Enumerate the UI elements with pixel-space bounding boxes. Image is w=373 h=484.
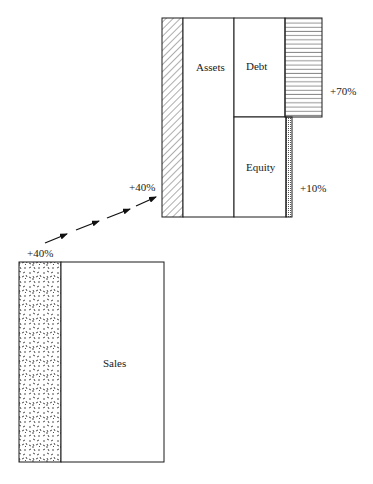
arrow-segment — [107, 209, 130, 218]
debt-label: Debt — [246, 61, 267, 72]
equity-growth-label: +10% — [300, 183, 326, 194]
arrow-segment — [136, 197, 156, 206]
assets-growth-hatch — [162, 18, 183, 217]
growth-arrow-connector — [45, 197, 156, 243]
assets-box — [183, 18, 234, 217]
sales-growth-label: +40% — [27, 248, 53, 259]
equity-label: Equity — [246, 162, 275, 173]
debt-growth-label: +70% — [330, 86, 356, 97]
assets-label: Assets — [196, 62, 225, 73]
sales-block — [19, 262, 164, 462]
arrow-segment — [45, 234, 67, 243]
sales-label: Sales — [103, 358, 126, 369]
diagram-canvas — [0, 0, 373, 484]
sales-growth-speckle — [19, 262, 61, 462]
equity-growth-dots — [286, 117, 292, 217]
debt-growth-hatch — [285, 18, 322, 117]
arrow-segment — [76, 221, 99, 230]
assets-growth-label: +40% — [129, 182, 155, 193]
balance-sheet-block — [162, 18, 322, 217]
